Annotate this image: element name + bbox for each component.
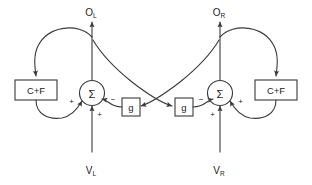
sign-sum-left-input: + [97,110,102,119]
output-left-label: OL [85,7,97,19]
right-output-to-cf-path [220,28,277,76]
cf-block-left-label: C+F [27,85,45,96]
input-left-label: VL [86,165,97,177]
output-right-sub: R [221,12,226,19]
sum-node-left-label: Σ [89,88,96,100]
output-left-sub: L [93,12,97,19]
cf-block-right-label: C+F [267,85,285,96]
sign-sum-right-g: − [199,95,204,104]
diagram-svg: Σ C+F + + g − OL VL Σ [0,0,312,185]
g-block-right-label: g [181,102,186,113]
output-right-label: OR [213,7,226,19]
sign-sum-right-cf: + [238,97,243,106]
g-block-left-label: g [128,102,133,113]
sign-sum-left-cf: + [69,97,74,106]
sign-sum-right-input: + [210,110,215,119]
sum-node-right-label: Σ [217,88,224,100]
left-output-to-cf-path [35,28,92,76]
cf-right-to-sum-path [230,100,276,118]
sign-sum-left-g: − [111,95,116,104]
input-left-sub: L [93,170,97,177]
input-right-label: VR [213,165,225,177]
block-diagram-canvas: Σ C+F + + g − OL VL Σ [0,0,312,185]
cf-left-to-sum-path [36,100,82,118]
input-right-sub: R [220,170,225,177]
